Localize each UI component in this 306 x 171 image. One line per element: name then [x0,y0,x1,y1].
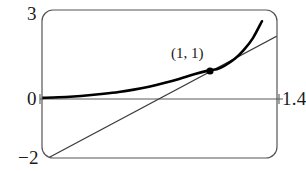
y-min-label: −2 [18,148,39,167]
function-curve [42,21,262,98]
marked-point-dot [206,67,213,74]
y-zero-label: 0 [27,89,37,108]
graph-figure: 3 0 −2 1.4 (1, 1) [0,0,306,171]
plot-canvas [0,0,306,171]
y-max-label: 3 [27,4,37,23]
point-coordinate-label: (1, 1) [171,46,204,61]
x-max-label: 1.4 [282,89,306,108]
